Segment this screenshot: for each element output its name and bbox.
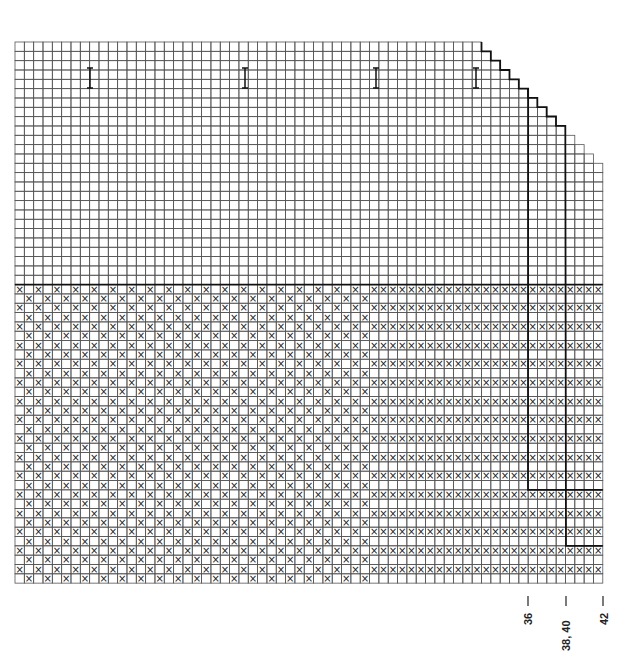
x-stitch-icon: × xyxy=(34,489,42,500)
x-stitch-icon: × xyxy=(398,358,406,369)
x-stitch-icon: × xyxy=(342,349,350,360)
x-stitch-icon: × xyxy=(193,424,201,435)
x-stitch-icon: × xyxy=(529,302,537,313)
x-stitch-icon: × xyxy=(426,564,434,575)
x-stitch-icon: × xyxy=(435,302,443,313)
x-stitch-icon: × xyxy=(62,349,70,360)
x-stitch-icon: × xyxy=(221,321,229,332)
x-stitch-icon: × xyxy=(519,396,527,407)
x-stitch-icon: × xyxy=(463,489,471,500)
x-stitch-icon: × xyxy=(211,498,219,509)
x-stitch-icon: × xyxy=(90,340,98,351)
x-stitch-icon: × xyxy=(370,452,378,463)
x-stitch-icon: × xyxy=(379,545,387,556)
x-stitch-icon: × xyxy=(267,554,275,565)
x-stitch-icon: × xyxy=(407,340,415,351)
x-stitch-icon: × xyxy=(435,340,443,351)
x-stitch-icon: × xyxy=(183,526,191,537)
x-stitch-icon: × xyxy=(333,414,341,425)
x-stitch-icon: × xyxy=(174,424,182,435)
x-stitch-icon: × xyxy=(454,564,462,575)
x-stitch-icon: × xyxy=(575,358,583,369)
x-stitch-icon: × xyxy=(221,526,229,537)
x-stitch-icon: × xyxy=(314,452,322,463)
x-stitch-icon: × xyxy=(566,340,574,351)
x-stitch-icon: × xyxy=(137,498,145,509)
x-stitch-icon: × xyxy=(62,386,70,397)
x-stitch-icon: × xyxy=(90,302,98,313)
x-stitch-icon: × xyxy=(435,321,443,332)
x-stitch-icon: × xyxy=(34,452,42,463)
x-stitch-icon: × xyxy=(417,340,425,351)
x-stitch-icon: × xyxy=(109,414,117,425)
x-stitch-icon: × xyxy=(379,508,387,519)
x-stitch-icon: × xyxy=(193,386,201,397)
x-stitch-icon: × xyxy=(473,302,481,313)
x-stitch-icon: × xyxy=(15,321,23,332)
x-stitch-icon: × xyxy=(333,452,341,463)
x-stitch-icon: × xyxy=(258,302,266,313)
x-stitch-icon: × xyxy=(407,545,415,556)
x-stitch-icon: × xyxy=(25,312,33,323)
x-stitch-icon: × xyxy=(193,349,201,360)
x-stitch-icon: × xyxy=(193,573,201,584)
x-stitch-icon: × xyxy=(221,470,229,481)
x-stitch-icon: × xyxy=(463,302,471,313)
x-stitch-icon: × xyxy=(137,386,145,397)
x-stitch-icon: × xyxy=(361,554,369,565)
x-stitch-icon: × xyxy=(491,377,499,388)
x-stitch-icon: × xyxy=(53,489,61,500)
x-stitch-icon: × xyxy=(221,302,229,313)
x-stitch-icon: × xyxy=(71,564,79,575)
x-stitch-icon: × xyxy=(174,386,182,397)
x-stitch-icon: × xyxy=(90,452,98,463)
x-stitch-icon: × xyxy=(230,442,238,453)
x-stitch-icon: × xyxy=(277,433,285,444)
x-stitch-icon: × xyxy=(305,405,313,416)
x-stitch-icon: × xyxy=(417,489,425,500)
x-stitch-icon: × xyxy=(202,470,210,481)
x-stitch-icon: × xyxy=(454,396,462,407)
x-stitch-icon: × xyxy=(62,424,70,435)
x-stitch-icon: × xyxy=(333,526,341,537)
x-stitch-icon: × xyxy=(230,536,238,547)
x-stitch-icon: × xyxy=(323,573,331,584)
x-stitch-icon: × xyxy=(71,470,79,481)
x-stitch-icon: × xyxy=(389,377,397,388)
x-stitch-icon: × xyxy=(463,526,471,537)
x-stitch-icon: × xyxy=(473,433,481,444)
x-stitch-icon: × xyxy=(267,573,275,584)
x-stitch-icon: × xyxy=(146,358,154,369)
x-stitch-icon: × xyxy=(491,526,499,537)
x-stitch-icon: × xyxy=(454,508,462,519)
x-stitch-icon: × xyxy=(174,517,182,528)
x-stitch-icon: × xyxy=(594,414,602,425)
x-stitch-icon: × xyxy=(295,489,303,500)
x-stitch-icon: × xyxy=(174,498,182,509)
x-stitch-icon: × xyxy=(53,377,61,388)
x-stitch-icon: × xyxy=(118,330,126,341)
x-stitch-icon: × xyxy=(361,573,369,584)
x-stitch-icon: × xyxy=(193,293,201,304)
x-stitch-icon: × xyxy=(575,396,583,407)
x-stitch-icon: × xyxy=(118,312,126,323)
x-stitch-icon: × xyxy=(109,377,117,388)
x-stitch-icon: × xyxy=(389,321,397,332)
x-stitch-icon: × xyxy=(435,414,443,425)
x-stitch-icon: × xyxy=(575,470,583,481)
x-stitch-icon: × xyxy=(90,377,98,388)
x-stitch-icon: × xyxy=(118,517,126,528)
x-stitch-icon: × xyxy=(501,526,509,537)
x-stitch-icon: × xyxy=(81,461,89,472)
x-stitch-icon: × xyxy=(454,545,462,556)
x-stitch-icon: × xyxy=(34,470,42,481)
x-stitch-icon: × xyxy=(389,489,397,500)
x-stitch-icon: × xyxy=(286,368,294,379)
x-stitch-icon: × xyxy=(239,340,247,351)
x-stitch-icon: × xyxy=(146,377,154,388)
x-stitch-icon: × xyxy=(71,508,79,519)
x-stitch-icon: × xyxy=(342,293,350,304)
x-stitch-icon: × xyxy=(426,508,434,519)
x-stitch-icon: × xyxy=(34,340,42,351)
x-stitch-icon: × xyxy=(491,414,499,425)
